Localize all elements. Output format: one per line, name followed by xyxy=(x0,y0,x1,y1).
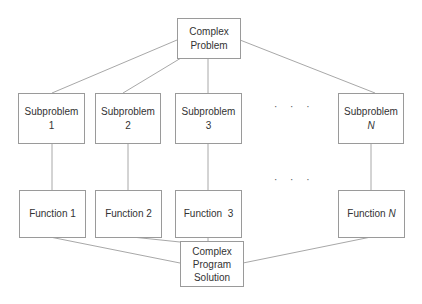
solution-line3: Solution xyxy=(194,271,230,284)
subproblem-n-box: Subproblem N xyxy=(338,93,404,144)
subproblem-2-index: 2 xyxy=(125,119,131,133)
connector-top-to-sub2 xyxy=(123,58,181,93)
function-n-index: N xyxy=(388,207,395,221)
subproblem-2-label: Subproblem xyxy=(101,105,155,119)
connector-top-to-sub1 xyxy=(52,40,177,93)
complex-problem-box: Complex Problem xyxy=(177,18,241,59)
function-1-box: Function 1 xyxy=(19,190,86,238)
complex-problem-line1: Complex xyxy=(189,25,228,39)
function-2-label: Function 2 xyxy=(105,207,152,221)
function-3-box: Function 3 xyxy=(175,190,242,238)
ellipsis-subproblems: · · · xyxy=(274,101,315,112)
subproblem-1-box: Subproblem 1 xyxy=(18,93,85,144)
connector-top-to-subN xyxy=(240,40,375,93)
subproblem-3-index: 3 xyxy=(206,119,212,133)
connector-f1-to-bottom xyxy=(50,237,180,263)
function-n-label: Function xyxy=(347,207,385,221)
subproblem-n-index: N xyxy=(367,119,374,133)
function-3-label: Function 3 xyxy=(184,207,233,221)
function-n-box: Function N xyxy=(338,190,405,238)
solution-line2: Program xyxy=(193,258,231,271)
subproblem-1-index: 1 xyxy=(49,119,55,133)
subproblem-3-box: Subproblem 3 xyxy=(175,93,242,144)
subproblem-2-box: Subproblem 2 xyxy=(95,93,161,144)
connector-fN-to-bottom xyxy=(243,237,371,263)
subproblem-1-label: Subproblem xyxy=(25,105,79,119)
ellipsis-functions: · · · xyxy=(274,174,315,185)
complex-problem-line2: Problem xyxy=(190,39,227,53)
function-1-label: Function 1 xyxy=(29,207,76,221)
complex-program-solution-box: Complex Program Solution xyxy=(180,241,244,287)
function-2-box: Function 2 xyxy=(95,190,162,238)
subproblem-3-label: Subproblem xyxy=(182,105,236,119)
solution-line1: Complex xyxy=(192,245,231,258)
subproblem-n-label: Subproblem xyxy=(344,105,398,119)
